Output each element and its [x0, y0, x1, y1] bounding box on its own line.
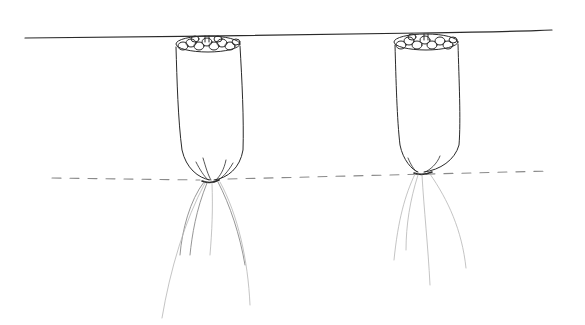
left-pouch-body [176, 46, 243, 180]
right-pouch-body [395, 44, 460, 172]
left-pouch-roots [162, 182, 250, 318]
left-pouch-knot [202, 180, 219, 182]
left-pouch-pebbles [176, 36, 240, 52]
right-pouch-roots [394, 174, 466, 285]
sketch-canvas [0, 0, 585, 325]
right-pouch [394, 34, 466, 285]
dashed-ground-line [52, 171, 550, 180]
left-pouch [162, 36, 250, 318]
right-pouch-pebbles [394, 34, 458, 50]
top-line [25, 30, 552, 38]
sketch-drawing [0, 0, 585, 325]
